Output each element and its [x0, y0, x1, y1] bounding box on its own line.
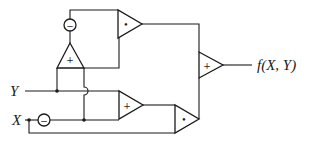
output-label: f(X, Y): [257, 58, 296, 73]
input-y-label: Y: [10, 84, 18, 99]
adder-vertical-symbol: +: [66, 55, 74, 65]
multiplier-bottom-symbol: •: [181, 115, 186, 125]
junction-dot-x-input: [27, 118, 31, 122]
adder-vertical-block: +: [57, 43, 84, 68]
adder-output-symbol: +: [203, 61, 211, 71]
negate-top-symbol: −: [66, 21, 74, 31]
negate-x-block: −: [38, 114, 50, 126]
adder-middle-symbol: +: [123, 101, 131, 111]
negate-top-block: −: [64, 19, 76, 31]
multiplier-bottom-block: •: [175, 105, 199, 133]
block-diagram: − + • + • − + Y X: [0, 0, 311, 142]
wire-adder-to-multiplier-top-input2: [84, 37, 119, 68]
adder-middle-block: +: [119, 91, 143, 119]
junction-dot-y: [55, 89, 59, 93]
wire-x-loop-to-multiplier-bottom: [29, 120, 175, 133]
wire-adder-right-to-x: [84, 68, 88, 120]
junction-dot-x-adder: [82, 118, 86, 122]
input-x-label: X: [12, 113, 21, 128]
wire-negate-to-multiplier-top: [70, 10, 118, 19]
adder-output-block: +: [199, 52, 223, 78]
multiplier-top-symbol: •: [123, 20, 128, 30]
negate-x-symbol: −: [40, 116, 48, 126]
wire-multiplier-top-to-adder-output: [142, 24, 199, 52]
multiplier-top-block: •: [118, 10, 142, 38]
